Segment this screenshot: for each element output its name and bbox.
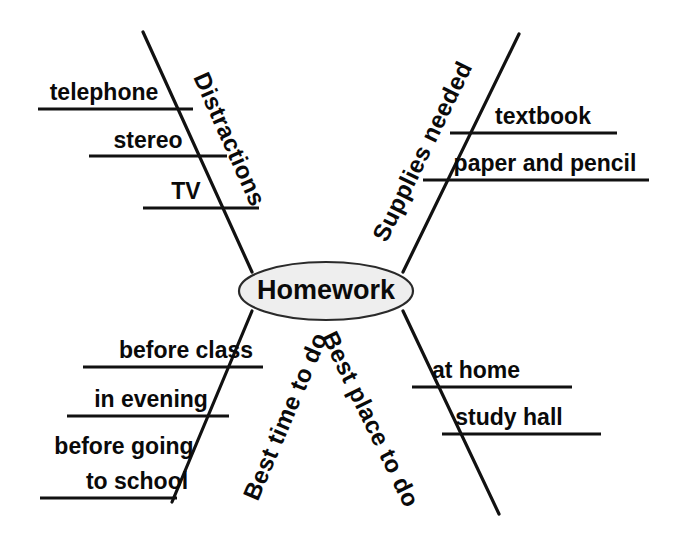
branch-label-best-place-to-do[interactable]: Best place to do — [317, 327, 425, 511]
item-label-study-hall[interactable]: study hall — [455, 404, 562, 430]
item-label-stereo[interactable]: stereo — [113, 127, 182, 153]
mind-map-diagram: Homework Distractions Supplies needed Be… — [0, 0, 675, 545]
item-label-telephone[interactable]: telephone — [50, 79, 159, 105]
item-label-to-school[interactable]: to school — [86, 468, 188, 494]
item-label-textbook[interactable]: textbook — [495, 103, 591, 129]
item-label-at-home[interactable]: at home — [432, 357, 520, 383]
item-label-tv[interactable]: TV — [171, 178, 201, 204]
branch-label-distractions[interactable]: Distractions — [188, 68, 271, 210]
item-label-before-class[interactable]: before class — [119, 337, 253, 363]
center-node-label: Homework — [257, 275, 396, 305]
diagram-canvas: Homework Distractions Supplies needed Be… — [0, 0, 675, 545]
item-label-before-going[interactable]: before going — [54, 433, 193, 459]
item-label-in-evening[interactable]: in evening — [94, 386, 208, 412]
center-node[interactable]: Homework — [239, 262, 413, 320]
item-label-paper-and-pencil[interactable]: paper and pencil — [454, 150, 637, 176]
